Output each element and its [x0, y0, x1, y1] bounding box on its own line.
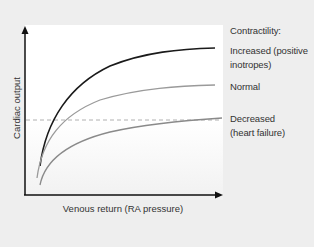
- x-axis-label: Venous return (RA pressure): [63, 203, 183, 214]
- curve-normal: [37, 85, 215, 178]
- x-axis-arrow-icon: [215, 192, 223, 199]
- curve-increased: [40, 48, 215, 166]
- legend-decreased-line2: (heart failure): [230, 127, 285, 138]
- legend-increased-line2: inotropes): [230, 59, 271, 70]
- legend-decreased-line1: Decreased: [230, 113, 275, 124]
- legend-increased-line1: Increased (positive: [230, 45, 308, 56]
- legend-title: Contractility:: [230, 25, 281, 36]
- y-axis-arrow-icon: [22, 26, 29, 34]
- y-axis-label: Cardiac output: [11, 77, 22, 139]
- curve-decreased: [40, 118, 222, 185]
- legend-normal: Normal: [230, 81, 260, 92]
